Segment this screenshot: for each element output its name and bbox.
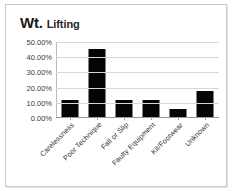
chart-title-main: Wt. (20, 14, 43, 31)
bar-slot (56, 41, 83, 117)
y-axis-tick-label: 30.00% (27, 68, 52, 77)
bar[interactable] (170, 109, 187, 117)
bar-slot (192, 41, 219, 117)
x-axis-category-label: Unknown (183, 120, 211, 148)
y-axis-tick-label: 20.00% (27, 83, 52, 92)
bar-slot (165, 41, 192, 117)
bar-series (56, 41, 219, 117)
chart-screenshot: Wt. Lifting 0.00%10.00%20.00%30.00%40.00… (0, 0, 232, 191)
y-axis-tick-label: 0.00% (31, 114, 52, 123)
y-axis-tick-label: 40.00% (27, 53, 52, 62)
gridline (56, 72, 219, 73)
chart-title: Wt. Lifting (20, 14, 80, 31)
gridline (56, 88, 219, 89)
bar-slot (83, 41, 110, 117)
bar-slot (110, 41, 137, 117)
y-axis-tick-label: 50.00% (27, 38, 52, 47)
gridline (56, 103, 219, 104)
bar[interactable] (88, 49, 105, 117)
gridline (56, 57, 219, 58)
bar-slot (138, 41, 165, 117)
gridline (56, 42, 219, 43)
plot-area: 0.00%10.00%20.00%30.00%40.00%50.00% (56, 42, 219, 118)
x-axis-category-labels: CarelessnessPoor TechniqueFall or SlipFa… (56, 120, 219, 182)
bar[interactable] (197, 91, 214, 117)
chart-title-sub: Lifting (47, 18, 80, 30)
y-axis-tick-label: 10.00% (27, 98, 52, 107)
